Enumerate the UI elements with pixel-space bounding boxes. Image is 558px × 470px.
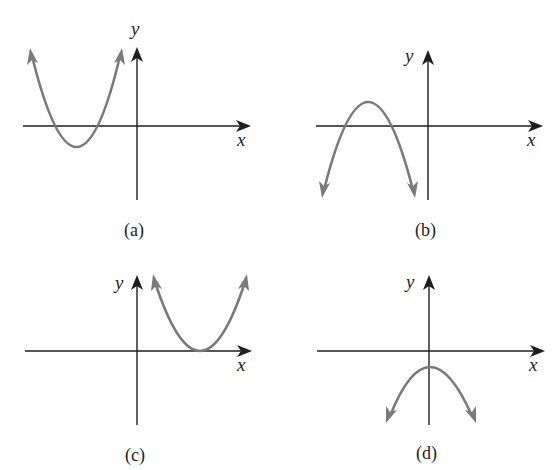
curve-arrow-icon	[465, 406, 476, 423]
x-axis-label: x	[526, 129, 536, 150]
x-axis-label: x	[528, 354, 538, 375]
panel-caption: (d)	[416, 443, 437, 464]
x-axis-label: x	[236, 129, 246, 150]
parabola-curve	[390, 367, 472, 416]
panel-caption: (a)	[124, 220, 144, 241]
panel-c: y x (c)	[25, 272, 252, 466]
panel-d: y x (d)	[317, 271, 545, 464]
panel-a: y x (a)	[23, 18, 251, 241]
parabola-curve	[32, 56, 120, 147]
panel-caption: (c)	[125, 445, 145, 466]
panel-caption: (b)	[415, 220, 436, 241]
y-axis-label: y	[129, 18, 140, 39]
parabola-curve	[324, 102, 413, 190]
x-axis-label: x	[236, 354, 246, 375]
y-axis-label: y	[403, 45, 414, 66]
parabola-figure: y x (a) y x (b) y x (c) y	[0, 0, 558, 470]
curve-arrow-icon	[386, 406, 397, 423]
y-axis-label: y	[404, 271, 415, 292]
y-axis-label: y	[113, 272, 124, 293]
panel-b: y x (b)	[316, 45, 543, 241]
parabola-curve	[155, 282, 245, 351]
